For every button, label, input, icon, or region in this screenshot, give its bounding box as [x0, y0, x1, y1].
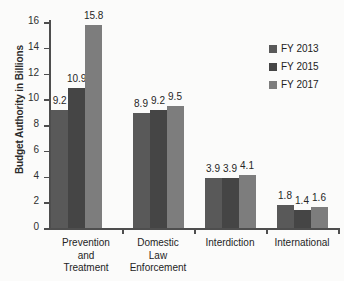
y-axis-tick-label: 8 — [33, 118, 39, 129]
bar[interactable]: 4.1 — [239, 175, 256, 228]
legend-swatch-icon — [269, 45, 277, 53]
legend-label: FY 2017 — [281, 79, 319, 90]
legend-item[interactable]: FY 2017 — [269, 77, 319, 92]
bar[interactable]: 15.8 — [85, 25, 102, 228]
x-axis-category-label: DomesticLawEnforcement — [122, 237, 194, 275]
y-axis-tick-label: 0 — [33, 221, 39, 232]
bar-value-label: 3.9 — [206, 163, 220, 174]
x-axis-category-label: Interdiction — [194, 237, 266, 250]
x-axis-tick-mark — [338, 228, 340, 234]
bar-value-label: 15.8 — [84, 10, 103, 21]
bar-group: 8.99.29.5 — [133, 22, 184, 228]
legend-label: FY 2013 — [281, 43, 319, 54]
x-axis-line — [44, 228, 338, 230]
bar[interactable]: 9.5 — [167, 106, 184, 228]
x-axis-category-label-line: Treatment — [50, 262, 122, 275]
x-axis-category-label-line: International — [266, 237, 338, 250]
bar[interactable]: 1.8 — [277, 205, 294, 228]
bar[interactable]: 3.9 — [205, 178, 222, 228]
y-axis-tick-label: 12 — [28, 67, 39, 78]
x-axis-category-label-line: Interdiction — [194, 237, 266, 250]
chart-legend: FY 2013FY 2015FY 2017 — [269, 41, 319, 95]
y-axis-tick-label: 16 — [28, 15, 39, 26]
x-axis-category-label: PreventionandTreatment — [50, 237, 122, 275]
bar[interactable]: 10.9 — [68, 88, 85, 228]
x-axis-category-label-line: and — [50, 250, 122, 263]
bar-value-label: 10.9 — [67, 73, 86, 84]
x-axis-tick-mark — [266, 228, 268, 234]
bar-value-label: 9.5 — [168, 91, 182, 102]
y-axis-tick-mark — [44, 228, 50, 230]
legend-item[interactable]: FY 2013 — [269, 41, 319, 56]
y-axis-tick-label: 14 — [28, 41, 39, 52]
bar-group: 3.93.94.1 — [205, 22, 256, 228]
x-axis-category-label-line: Enforcement — [122, 262, 194, 275]
bar-value-label: 4.1 — [240, 160, 254, 171]
x-axis-category-label: International — [266, 237, 338, 250]
bar-value-label: 9.2 — [151, 95, 165, 106]
bar-value-label: 9.2 — [53, 95, 67, 106]
bar-value-label: 1.4 — [295, 195, 309, 206]
bar[interactable]: 9.2 — [51, 110, 68, 228]
legend-swatch-icon — [269, 81, 277, 89]
legend-item[interactable]: FY 2015 — [269, 59, 319, 74]
y-axis-title: Budget Authority in Billions — [14, 25, 25, 195]
bar-value-label: 8.9 — [134, 98, 148, 109]
y-axis-tick-label: 4 — [33, 170, 39, 181]
bar-group: 9.210.915.8 — [51, 22, 102, 228]
x-axis-category-label-line: Law — [122, 250, 194, 263]
legend-label: FY 2015 — [281, 61, 319, 72]
bar[interactable]: 1.6 — [311, 207, 328, 228]
x-axis-tick-mark — [194, 228, 196, 234]
x-axis-category-label-line: Prevention — [50, 237, 122, 250]
y-axis-tick-label: 6 — [33, 144, 39, 155]
bar[interactable]: 9.2 — [150, 110, 167, 228]
bar-value-label: 1.6 — [312, 192, 326, 203]
bar-value-label: 3.9 — [223, 163, 237, 174]
bar[interactable]: 8.9 — [133, 113, 150, 228]
bar[interactable]: 3.9 — [222, 178, 239, 228]
bar-value-label: 1.8 — [278, 190, 292, 201]
bar-chart: Budget Authority in Billions 02468101214… — [0, 0, 344, 281]
x-axis-category-label-line: Domestic — [122, 237, 194, 250]
x-axis-tick-mark — [122, 228, 124, 234]
y-axis-tick-label: 2 — [33, 195, 39, 206]
legend-swatch-icon — [269, 63, 277, 71]
y-axis-tick-label: 10 — [28, 92, 39, 103]
bar[interactable]: 1.4 — [294, 210, 311, 228]
